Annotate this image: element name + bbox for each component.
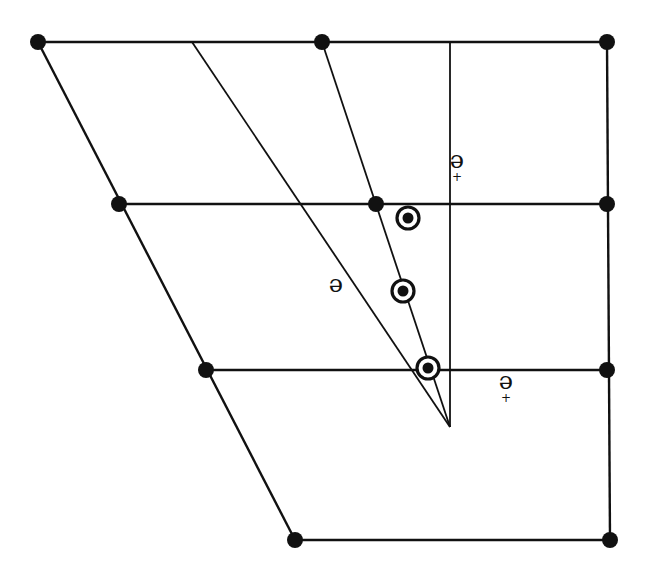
right-edge (607, 42, 610, 540)
geometry-diagram: e+ee+ (0, 0, 648, 582)
node-top-mid (314, 34, 330, 50)
node-row3-left (198, 362, 214, 378)
node-bottom-left (287, 532, 303, 548)
grid-lines (38, 42, 610, 540)
angle-label-vertical: e+ (450, 149, 464, 184)
target-middle (392, 280, 414, 302)
left-edge (38, 42, 295, 540)
angle-label-horizontal: e+ (499, 370, 513, 405)
target-lower (417, 357, 439, 379)
node-top-right (599, 34, 615, 50)
target-upper (397, 207, 419, 229)
target-markers (392, 207, 439, 379)
node-row2-left (111, 196, 127, 212)
svg-text:e: e (329, 273, 343, 301)
svg-text:+: + (501, 391, 511, 405)
svg-text:+: + (452, 170, 462, 184)
node-bottom-right (602, 532, 618, 548)
node-row3-right (599, 362, 615, 378)
node-row2-right (599, 196, 615, 212)
angle-label-diagonal: e (329, 273, 343, 301)
node-row2-mid (368, 196, 384, 212)
node-top-left (30, 34, 46, 50)
grid-nodes (30, 34, 618, 548)
